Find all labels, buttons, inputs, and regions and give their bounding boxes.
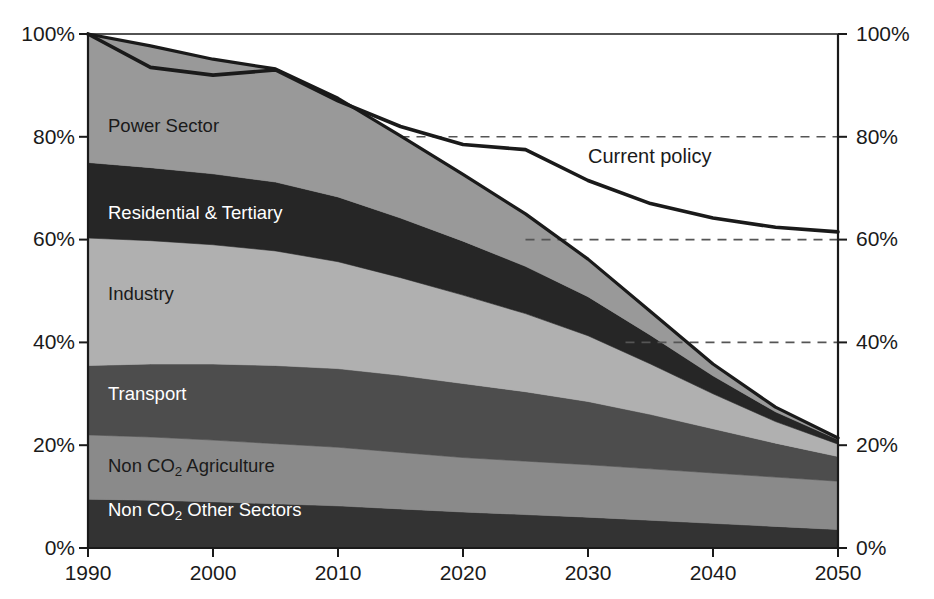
band-label-non-co2-agriculture-post: Agriculture [182,455,275,476]
band-label-non-co2-other-pre: Non CO [108,499,175,520]
band-label-power-sector: Power Sector [108,117,219,136]
y-axis-right-tick-80: 80% [856,126,898,147]
annotation-current-policy: Current policy [588,146,711,166]
y-axis-left-tick-0: 0% [0,537,75,558]
y-axis-right-tick-100: 100% [856,23,910,44]
band-label-non-co2-agriculture-pre: Non CO [108,455,175,476]
y-axis-left-tick-100: 100% [0,23,75,44]
x-axis-tick-2030: 2030 [538,562,638,583]
x-axis-tick-2010: 2010 [288,562,388,583]
x-axis-tick-2040: 2040 [663,562,763,583]
y-axis-left-tick-60: 60% [0,228,75,249]
x-axis-tick-2050: 2050 [788,562,888,583]
y-axis-right-tick-40: 40% [856,331,898,352]
stacked-area-chart: 100% 80% 60% 40% 20% 0% 100% 80% 60% 40%… [0,0,934,599]
x-axis-tick-2020: 2020 [413,562,513,583]
y-axis-right-tick-20: 20% [856,434,898,455]
y-axis-left-tick-40: 40% [0,331,75,352]
band-label-industry: Industry [108,285,174,304]
y-axis-left-tick-80: 80% [0,126,75,147]
band-label-non-co2-other-post: Other Sectors [182,499,301,520]
x-axis-tick-2000: 2000 [163,562,263,583]
band-label-non-co2-other-sectors: Non CO2 Other Sectors [108,501,302,520]
band-label-transport: Transport [108,385,186,404]
x-axis-tick-1990: 1990 [38,562,138,583]
band-label-non-co2-agriculture: Non CO2 Agriculture [108,457,275,476]
y-axis-right-tick-0: 0% [856,537,886,558]
y-axis-right-tick-60: 60% [856,228,898,249]
band-label-residential-tertiary: Residential & Tertiary [108,204,282,223]
y-axis-left-tick-20: 20% [0,434,75,455]
